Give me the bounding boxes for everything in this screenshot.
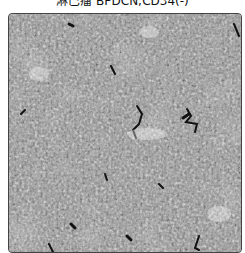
histology-image [8,13,242,253]
micrograph-texture [9,14,241,252]
figure-title: 淋巴瘤 BPDCN;CD34(-) [0,0,245,8]
